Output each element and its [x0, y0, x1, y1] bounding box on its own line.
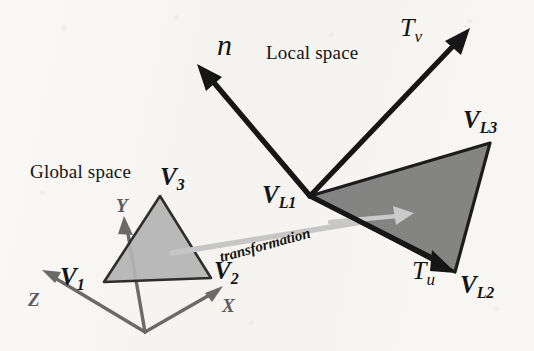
vertex-vl1-label: VL1: [262, 182, 296, 211]
vertex-v2-subscript: 2: [231, 270, 239, 287]
axis-x-arrow: [145, 286, 223, 332]
vertex-v2-symbol: V: [214, 257, 231, 284]
tangent-u-label: Tu: [412, 258, 435, 288]
vertex-vl2-symbol: V: [460, 271, 477, 298]
local-space-label: Local space: [266, 43, 358, 62]
vertex-vl2-subscript: L2: [477, 284, 494, 301]
global-space-label: Global space: [30, 162, 131, 181]
axis-x-label: X: [222, 296, 235, 315]
vertex-vl1-subscript: L1: [279, 194, 296, 211]
vertex-v1-label: V1: [60, 264, 85, 293]
vertex-vl1-symbol: V: [262, 181, 279, 208]
tangent-v-symbol: T: [400, 13, 414, 42]
vertex-v1-subscript: 1: [77, 276, 85, 293]
vertex-vl3-symbol: V: [463, 106, 480, 133]
tangent-u-symbol: T: [412, 256, 426, 285]
axis-z-label: Z: [28, 290, 40, 309]
axis-y-label: Y: [116, 196, 128, 215]
vertex-vl3-label: VL3: [463, 107, 497, 136]
normal-vector-label: n: [217, 30, 232, 60]
vertex-v2-label: V2: [214, 258, 239, 287]
vertex-v3-label: V3: [160, 164, 185, 193]
vertex-v1-symbol: V: [60, 263, 77, 290]
normal-vector-arrow: [197, 64, 310, 196]
vertex-vl2-label: VL2: [460, 272, 494, 301]
vertex-vl3-subscript: L3: [480, 119, 497, 136]
vertex-v3-symbol: V: [160, 163, 177, 190]
vertex-v3-subscript: 3: [177, 176, 185, 193]
tangent-u-subscript: u: [426, 270, 435, 289]
tangent-v-subscript: v: [414, 27, 422, 46]
tangent-v-label: Tv: [400, 15, 422, 45]
figure-container: Global space Local space n Tv Tu transfo…: [0, 0, 534, 351]
